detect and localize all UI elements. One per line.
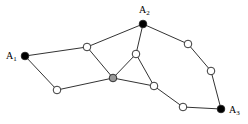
node-label-A3: A3: [229, 104, 240, 117]
edge-n7-A3: [183, 107, 221, 109]
node-A1: [21, 52, 29, 60]
node-n6: [207, 67, 215, 75]
node-label-A2: A2: [139, 4, 150, 17]
edge-n6-A3: [211, 71, 221, 109]
graph-diagram: A1A2A3: [0, 0, 248, 124]
node-g: [109, 74, 117, 82]
node-n4: [150, 82, 158, 90]
edge-n5-n6: [188, 44, 211, 71]
edge-g-n2: [113, 54, 136, 78]
edge-n3-g: [57, 78, 113, 90]
edge-n1-A2: [87, 24, 143, 47]
node-n2: [132, 50, 140, 58]
edge-n1-g: [87, 47, 113, 78]
edge-n2-A2: [136, 24, 143, 54]
node-A2: [139, 20, 147, 28]
edge-A2-n5: [143, 24, 188, 44]
edge-A1-n1: [25, 47, 87, 56]
edge-n2-n4: [136, 54, 154, 86]
node-n5: [184, 40, 192, 48]
edge-n4-n7: [154, 86, 183, 107]
node-n7: [179, 103, 187, 111]
edges: [25, 24, 221, 109]
labels: A1A2A3: [6, 4, 240, 117]
node-label-A1: A1: [6, 50, 17, 63]
edge-g-n4: [113, 78, 154, 86]
node-n1: [83, 43, 91, 51]
nodes: [21, 20, 225, 113]
node-A3: [217, 105, 225, 113]
edge-A1-n3: [25, 56, 57, 90]
node-n3: [53, 86, 61, 94]
